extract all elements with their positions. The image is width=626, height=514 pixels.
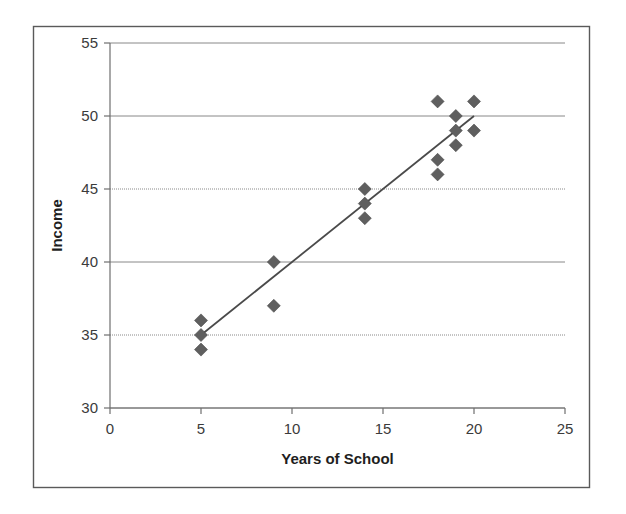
- scatter-chart: 303540455055 0510152025 Income Years of …: [0, 0, 626, 514]
- y-tick-label-55: 55: [81, 34, 98, 51]
- x-tick-label-15: 15: [375, 420, 392, 437]
- x-tick-label-5: 5: [197, 420, 205, 437]
- y-tick-label-45: 45: [81, 180, 98, 197]
- x-tick-label-0: 0: [106, 420, 114, 437]
- x-axis-title: Years of School: [281, 450, 394, 467]
- chart-figure: 303540455055 0510152025 Income Years of …: [0, 0, 626, 514]
- x-tick-label-20: 20: [466, 420, 483, 437]
- y-tick-label-50: 50: [81, 107, 98, 124]
- x-tick-label-10: 10: [284, 420, 301, 437]
- y-axis-title: Income: [48, 199, 65, 252]
- x-tick-label-25: 25: [557, 420, 574, 437]
- y-tick-label-35: 35: [81, 326, 98, 343]
- y-tick-label-40: 40: [81, 253, 98, 270]
- y-tick-label-30: 30: [81, 399, 98, 416]
